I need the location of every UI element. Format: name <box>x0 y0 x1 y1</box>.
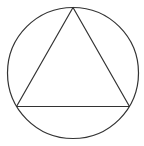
inscribed-triangle-diagram <box>0 0 144 146</box>
circumscribed-circle <box>8 8 139 139</box>
equilateral-triangle <box>17 8 130 107</box>
